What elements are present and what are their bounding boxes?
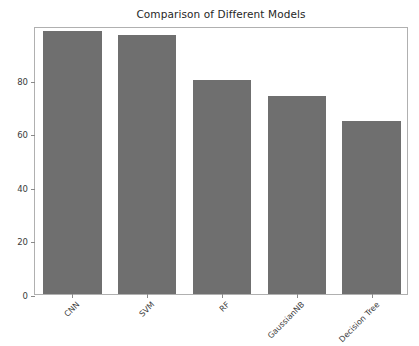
plot-axes: 020406080CNNSVMRFGaussianNBDecision Tree bbox=[34, 27, 408, 295]
y-axis-tick bbox=[31, 82, 35, 83]
x-axis-tick bbox=[72, 294, 73, 298]
x-axis-tick bbox=[297, 294, 298, 298]
x-axis-tick-label: CNN bbox=[63, 300, 82, 319]
x-axis-tick-label: SVM bbox=[138, 300, 157, 319]
y-axis-tick bbox=[31, 242, 35, 243]
y-axis-tick bbox=[31, 135, 35, 136]
x-axis-tick-label: GaussianNB bbox=[266, 300, 306, 340]
x-axis-tick bbox=[372, 294, 373, 298]
chart-title: Comparison of Different Models bbox=[34, 8, 408, 20]
y-axis-tick-label: 40 bbox=[17, 184, 28, 194]
y-axis-tick-label: 0 bbox=[23, 291, 28, 301]
plot-area: 020406080CNNSVMRFGaussianNBDecision Tree bbox=[35, 28, 407, 294]
x-axis-tick bbox=[222, 294, 223, 298]
y-axis-tick-label: 80 bbox=[17, 77, 28, 87]
x-axis-tick-label: RF bbox=[218, 300, 232, 314]
y-axis-tick bbox=[31, 296, 35, 297]
y-axis-tick-label: 20 bbox=[17, 237, 28, 247]
bar bbox=[193, 80, 251, 294]
bar bbox=[43, 31, 101, 294]
x-axis-tick bbox=[147, 294, 148, 298]
figure-canvas: Comparison of Different Models 020406080… bbox=[0, 0, 419, 346]
x-axis-tick-label: Decision Tree bbox=[337, 300, 381, 344]
y-axis-tick bbox=[31, 189, 35, 190]
bar bbox=[342, 121, 400, 294]
bar bbox=[268, 96, 326, 294]
bar bbox=[118, 35, 176, 294]
y-axis-tick-label: 60 bbox=[17, 130, 28, 140]
